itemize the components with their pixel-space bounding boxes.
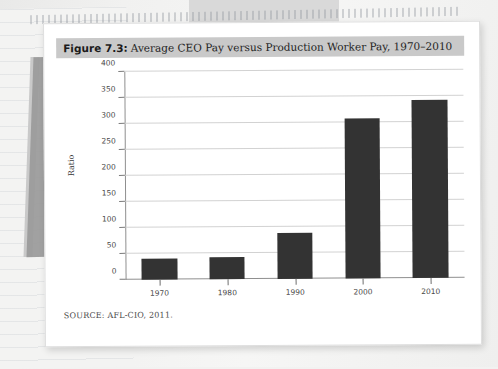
x-tick-label: 2010 [421, 287, 440, 296]
y-tick-label: 300 [101, 110, 115, 119]
gridlines: 050100150200250300350400 [124, 70, 463, 72]
y-tick-mark [118, 71, 124, 72]
x-tick-label: 1970 [150, 289, 169, 298]
y-tick-label: 0 [112, 266, 117, 275]
chart-region: Ratio 050100150200250300350400 197019801… [56, 66, 467, 309]
bar [142, 258, 177, 280]
figure-caption: Figure 7.3: Average CEO Pay versus Produ… [56, 36, 464, 58]
y-tick-label: 100 [102, 214, 116, 223]
bar [412, 100, 448, 279]
x-tick-label: 2000 [353, 287, 372, 296]
x-tick-mark [159, 280, 160, 286]
plot-area: 050100150200250300350400 197019801990200… [124, 70, 464, 280]
x-tick-mark [227, 279, 228, 285]
y-tick-label: 50 [107, 240, 117, 249]
y-tick-mark [120, 279, 126, 280]
y-axis-title: Ratio [67, 155, 76, 177]
bar [277, 233, 313, 279]
y-tick-label: 350 [101, 84, 115, 93]
y-tick-label: 400 [101, 58, 115, 67]
figure-title: Average CEO Pay versus Production Worker… [131, 40, 453, 54]
x-tick-mark [431, 278, 432, 284]
y-tick-mark [119, 253, 125, 254]
x-tick-mark [295, 279, 296, 285]
y-tick-mark [119, 201, 125, 202]
x-tick-label: 1990 [286, 288, 305, 297]
y-tick-label: 250 [101, 136, 115, 145]
figure-number: Figure 7.3: [63, 42, 128, 54]
figure-card: Figure 7.3: Average CEO Pay versus Produ… [43, 21, 482, 348]
y-tick-label: 200 [102, 162, 116, 171]
y-tick-mark [119, 227, 125, 228]
gridline [124, 69, 463, 72]
y-tick-mark [119, 123, 125, 124]
x-tick-mark [363, 278, 364, 284]
y-tick-mark [119, 149, 125, 150]
y-tick-label: 150 [102, 188, 116, 197]
gridline [124, 95, 463, 98]
bar [210, 257, 245, 279]
source-note: SOURCE: AFL-CIO, 2011. [64, 311, 173, 321]
bar [344, 118, 380, 278]
x-tick-label: 1980 [218, 288, 237, 297]
y-tick-mark [118, 97, 124, 98]
y-tick-mark [119, 175, 125, 176]
